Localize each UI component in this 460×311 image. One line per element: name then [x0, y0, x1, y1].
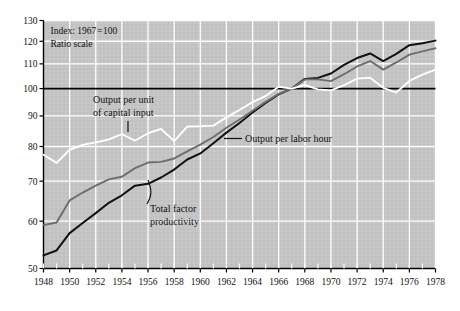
x-tick-label: 1952 [86, 277, 105, 287]
x-tick-label: 1974 [374, 277, 393, 287]
x-tick-label: 1964 [243, 277, 262, 287]
total-factor-productivity-label-line1: Total factor [150, 203, 197, 214]
y-tick-label: 100 [23, 84, 38, 94]
x-tick-label: 1956 [139, 277, 158, 287]
note-index: Index: 1967 = 100 [51, 26, 118, 36]
y-tick-label: 130 [23, 16, 38, 26]
y-tick-label: 120 [23, 37, 38, 47]
x-tick-label: 1970 [321, 277, 340, 287]
y-tick-label: 90 [28, 111, 38, 121]
x-tick-label: 1950 [60, 277, 79, 287]
y-tick-label: 60 [28, 217, 38, 227]
output-per-capital-label-line1: Output per unit [93, 94, 154, 105]
x-tick-label: 1960 [191, 277, 210, 287]
x-tick-label: 1954 [112, 277, 131, 287]
x-axis-ticks: 1948195019521954195619581960196219641966… [34, 269, 445, 287]
note-ratio-scale: Ratio scale [51, 39, 93, 49]
x-tick-label: 1966 [269, 277, 288, 287]
output-per-labor-hour-label: Output per labor hour [245, 133, 333, 144]
y-tick-label: 80 [28, 142, 38, 152]
x-tick-label: 1968 [295, 277, 314, 287]
x-tick-label: 1958 [165, 277, 184, 287]
x-tick-label: 1976 [400, 277, 419, 287]
line-chart: 5060708090100110120130194819501952195419… [0, 0, 460, 311]
y-tick-label: 50 [28, 264, 38, 274]
x-tick-label: 1962 [217, 277, 236, 287]
chart-figure: 5060708090100110120130194819501952195419… [0, 0, 460, 311]
x-tick-label: 1978 [426, 277, 445, 287]
output-per-capital-label-line2: of capital input [93, 107, 154, 118]
y-axis-ticks: 5060708090100110120130 [23, 16, 43, 274]
total-factor-productivity-label-line2: productivity [150, 216, 199, 227]
y-tick-label: 110 [24, 59, 38, 69]
x-tick-label: 1948 [34, 277, 53, 287]
y-tick-label: 70 [28, 177, 38, 187]
x-tick-label: 1972 [348, 277, 367, 287]
